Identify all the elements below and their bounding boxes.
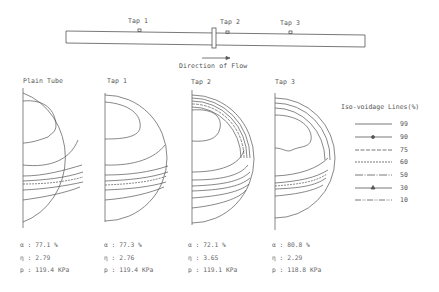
tap-1-label: Tap 1 bbox=[128, 17, 148, 25]
tap-3-port bbox=[289, 31, 292, 34]
tap-1-port bbox=[138, 29, 141, 32]
pressure-value: p : 118.8 KPa bbox=[272, 264, 321, 277]
legend-value-30: 30 bbox=[400, 184, 408, 192]
eta-value: η : 2.76 bbox=[104, 252, 153, 265]
legend-value-10: 10 bbox=[400, 196, 408, 204]
eta-value: η : 2.29 bbox=[272, 252, 321, 265]
legend-value-50: 50 bbox=[400, 171, 408, 179]
pressure-value: p : 119.4 KPa bbox=[104, 264, 153, 277]
legend-lines bbox=[355, 124, 392, 200]
eta-value: η : 3.65 bbox=[188, 252, 237, 265]
panel-stats-plain-tube: α : 77.1 % η : 2.79 p : 119.4 KPa bbox=[20, 239, 69, 277]
legend-value-75: 75 bbox=[400, 146, 408, 154]
panel-stats-tap-1: α : 77.3 % η : 2.76 p : 119.4 KPa bbox=[104, 239, 153, 277]
pipe-flange bbox=[212, 28, 216, 48]
panel-stats-tap-2: α : 72.1 % η : 3.65 p : 119.1 KPa bbox=[188, 239, 237, 277]
tap-2-label: Tap 2 bbox=[220, 18, 240, 26]
panel-title-plain-tube: Plain Tube bbox=[23, 77, 63, 85]
pressure-value: p : 119.4 KPa bbox=[20, 264, 69, 277]
panel-tap-1-contours bbox=[105, 93, 168, 222]
panel-title-tap-3: Tap 3 bbox=[275, 78, 295, 86]
tap-2-port bbox=[226, 31, 229, 34]
void-fraction: α : 77.1 % bbox=[20, 239, 69, 252]
pressure-value: p : 119.1 KPa bbox=[188, 264, 237, 277]
panel-title-tap-1: Tap 1 bbox=[107, 77, 127, 85]
legend-value-60: 60 bbox=[400, 158, 408, 166]
panel-stats-tap-3: α : 80.8 % η : 2.29 p : 118.8 KPa bbox=[272, 239, 321, 277]
panel-plain-tube-contours bbox=[23, 88, 83, 228]
void-fraction: α : 80.8 % bbox=[272, 239, 321, 252]
void-fraction: α : 72.1 % bbox=[188, 239, 237, 252]
panel-tap-3-contours bbox=[275, 93, 335, 230]
legend-value-90: 90 bbox=[400, 133, 408, 141]
legend-value-99: 99 bbox=[400, 120, 408, 128]
void-fraction: α : 77.3 % bbox=[104, 239, 153, 252]
flow-direction-label: Direction of Flow bbox=[179, 62, 247, 70]
eta-value: η : 2.79 bbox=[20, 252, 69, 265]
panel-title-tap-2: Tap 2 bbox=[191, 78, 211, 86]
panel-tap-2-contours bbox=[192, 90, 254, 225]
pipe-schematic bbox=[66, 28, 365, 60]
legend-title: Iso-voidage Lines(%) bbox=[341, 103, 419, 111]
flow-arrowhead bbox=[226, 57, 230, 60]
tap-3-label: Tap 3 bbox=[280, 19, 300, 27]
